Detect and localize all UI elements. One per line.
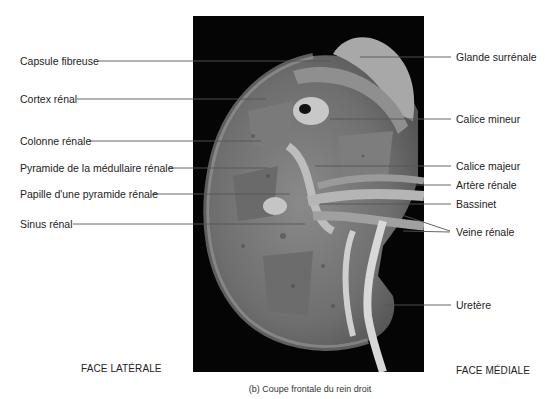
- label-pyramide-medullaire: Pyramide de la médullaire rénale: [20, 162, 174, 174]
- label-veine-renale: Veine rénale: [456, 226, 514, 238]
- face-mediale-label: FACE MÉDIALE: [456, 365, 530, 376]
- label-bassinet: Bassinet: [456, 198, 496, 210]
- label-uretere: Uretère: [456, 299, 491, 311]
- label-cortex-renal: Cortex rénal: [20, 93, 77, 105]
- label-calice-majeur: Calice majeur: [456, 160, 520, 172]
- face-laterale-label: FACE LATÉRALE: [81, 363, 162, 374]
- label-capsule-fibreuse: Capsule fibreuse: [20, 55, 99, 67]
- figure-caption: (b) Coupe frontale du rein droit: [0, 384, 545, 394]
- kidney-illustration: [193, 16, 424, 372]
- label-colonne-renale: Colonne rénale: [20, 135, 91, 147]
- label-sinus-renal: Sinus rénal: [20, 218, 73, 230]
- label-artere-renale: Artère rénale: [456, 179, 517, 191]
- kidney-section-photo: [193, 16, 424, 372]
- label-calice-mineur: Calice mineur: [456, 113, 520, 125]
- label-glande-surrenale: Glande surrénale: [456, 51, 537, 63]
- label-papille-pyramide: Papille d'une pyramide rénale: [20, 188, 158, 200]
